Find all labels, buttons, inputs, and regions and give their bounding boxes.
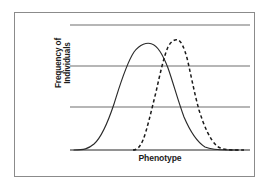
- figure-root: Frequency of Individuals Phenotype: [0, 0, 270, 188]
- gridlines: [70, 25, 250, 107]
- curve-dashed-distribution: [133, 40, 244, 150]
- curve-solid-distribution: [74, 43, 238, 150]
- x-axis-label: Phenotype: [70, 153, 250, 163]
